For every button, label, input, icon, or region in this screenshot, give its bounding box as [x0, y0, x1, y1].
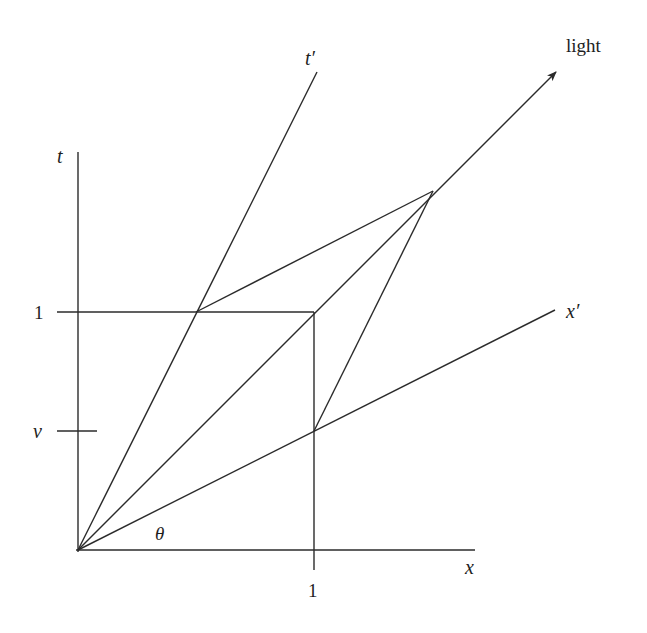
parallelogram-edge-top: [196, 191, 433, 312]
x-axis-label: x: [464, 556, 474, 578]
t-unit-label: 1: [34, 302, 44, 323]
x-prime-axis-label: x′: [565, 300, 580, 322]
x-prime-axis: [78, 310, 555, 550]
v-tick-label: v: [33, 420, 42, 442]
spacetime-diagram: t t′ light x′ 1 v θ x 1: [0, 0, 647, 633]
theta-label: θ: [155, 523, 164, 544]
t-prime-axis-label: t′: [305, 47, 316, 69]
x-unit-label: 1: [308, 580, 318, 601]
parallelogram-edge-right: [314, 191, 433, 431]
t-axis-label: t: [57, 145, 63, 167]
light-ray: [78, 72, 556, 550]
light-label: light: [566, 35, 602, 56]
